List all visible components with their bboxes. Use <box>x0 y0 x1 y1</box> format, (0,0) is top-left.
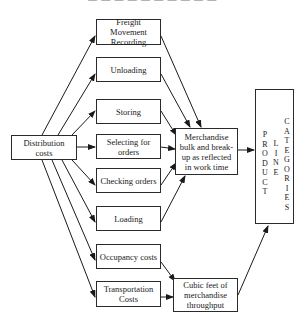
product-line-categories-box: P R O D U C T L I N E C A T E G O R I E … <box>255 89 294 224</box>
letter: G <box>282 155 292 165</box>
box-label: Checking orders <box>101 176 157 186</box>
letter: D <box>260 159 270 169</box>
letter: N <box>271 158 281 168</box>
letter: T <box>282 136 292 146</box>
letter: E <box>282 193 292 203</box>
letter: U <box>260 168 270 178</box>
distribution-costs-box: Distribution costs <box>11 135 77 160</box>
activity-loading: Loading <box>96 206 161 231</box>
activity-storing: Storing <box>96 99 161 124</box>
box-label: Storing <box>116 107 141 117</box>
vertical-word-line: L I N E <box>271 139 281 177</box>
letter: I <box>282 184 292 194</box>
letter: E <box>282 146 292 156</box>
box-label: Merchandise bulk and break-up as reflect… <box>178 132 235 172</box>
box-label: Transportation Costs <box>99 284 158 304</box>
letter: T <box>260 187 270 197</box>
letter: L <box>271 139 281 149</box>
activity-unloading: Unloading <box>96 57 161 82</box>
activity-freight-movement-recording: Freight Movement Recording <box>96 19 161 45</box>
box-label: Freight Movement Recording <box>99 17 158 47</box>
letter: A <box>282 127 292 137</box>
box-label: Selecting for orders <box>99 137 158 157</box>
activity-occupancy-costs: Occupancy costs <box>96 244 161 269</box>
letter: I <box>271 149 281 159</box>
letter: O <box>282 165 292 175</box>
letter: R <box>282 174 292 184</box>
letter: O <box>260 149 270 159</box>
driver-cubic-feet: Cubic feet of merchandise throughput <box>173 278 238 312</box>
letter: S <box>282 203 292 213</box>
letter: C <box>260 178 270 188</box>
driver-merchandise-bulk: Merchandise bulk and break-up as reflect… <box>175 128 238 175</box>
letter: C <box>282 117 292 127</box>
vertical-word-product: P R O D U C T <box>260 130 270 197</box>
letter: R <box>260 140 270 150</box>
box-label: Cubic feet of merchandise throughput <box>176 280 235 310</box>
letter: P <box>260 130 270 140</box>
activity-transportation-costs: Transportation Costs <box>96 281 161 307</box>
activity-checking-orders: Checking orders <box>96 168 161 193</box>
box-label: Loading <box>114 214 142 224</box>
vertical-word-categories: C A T E G O R I E S <box>282 117 292 212</box>
letter: E <box>271 168 281 178</box>
box-label: Unloading <box>111 65 147 75</box>
box-label: Occupancy costs <box>100 252 157 262</box>
box-label: Distribution costs <box>14 138 74 158</box>
activity-selecting-for-orders: Selecting for orders <box>96 134 161 159</box>
